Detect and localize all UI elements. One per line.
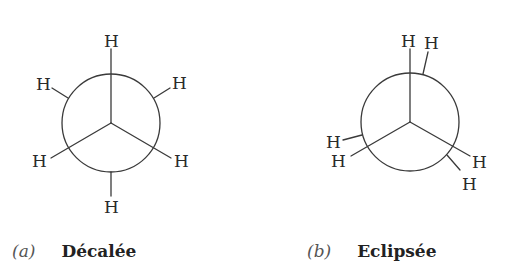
atom-h-left-front: H — [331, 151, 346, 171]
rear-bond-up — [423, 52, 428, 74]
caption-name: Décalée — [61, 241, 136, 261]
atom-h-right-rear: H — [462, 174, 477, 194]
rear-bond-right — [447, 155, 460, 170]
atom-h-top-front: H — [401, 31, 416, 51]
newman-projection-eclipsed: H H H H H H — [326, 31, 487, 194]
caption-tag: (a) — [12, 241, 35, 261]
atom-h-top-rear: H — [424, 33, 439, 53]
rear-bond-left — [343, 135, 362, 140]
atom-h-right-front: H — [472, 152, 487, 172]
atom-h-top: H — [104, 31, 119, 51]
front-bond-lower-right — [111, 123, 171, 158]
front-bond-lower-left — [51, 123, 111, 158]
atom-h-upper-left: H — [36, 74, 51, 94]
caption-tag: (b) — [307, 241, 331, 261]
atom-h-lower-left: H — [32, 151, 47, 171]
front-bond-lower-left — [351, 122, 410, 156]
atom-h-upper-right: H — [172, 73, 187, 93]
caption-staggered: (a)Décalée — [12, 241, 136, 261]
atom-h-bottom: H — [104, 197, 119, 217]
front-bond-lower-right — [410, 122, 470, 156]
caption-name: Eclipsée — [357, 241, 436, 261]
caption-eclipsed: (b)Eclipsée — [307, 241, 436, 261]
atom-h-lower-right: H — [174, 151, 189, 171]
newman-projection-staggered: H H H H H H — [32, 31, 189, 217]
atom-h-left-rear: H — [326, 132, 341, 152]
rear-bond-upper-right — [154, 88, 170, 98]
newman-projections-canvas: H H H H H H H H H H H H — [0, 0, 505, 274]
rear-bond-upper-left — [52, 88, 68, 98]
